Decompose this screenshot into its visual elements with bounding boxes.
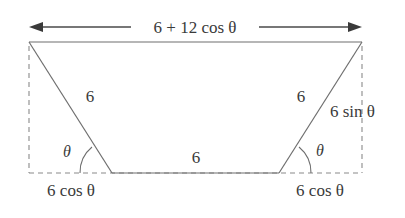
top-width-label: 6 + 12 cos θ — [154, 19, 237, 36]
right-height-label: 6 sin θ — [330, 103, 375, 120]
angle-arc-right — [299, 147, 311, 173]
right-leg-label: 6 — [297, 88, 306, 105]
bottom-base-label: 6 — [192, 149, 201, 166]
angle-arc-left — [80, 147, 92, 173]
left-leg-label: 6 — [86, 88, 95, 105]
arrowhead-right-icon — [348, 22, 362, 32]
angle-left-label: θ — [63, 144, 71, 160]
bottom-right-offset-label: 6 cos θ — [296, 182, 344, 199]
arrowhead-left-icon — [29, 22, 43, 32]
diagram-canvas: 6 + 12 cos θ 6 6 6 6 sin θ θ θ 6 cos θ 6… — [0, 0, 405, 218]
angle-right-label: θ — [316, 143, 324, 159]
bottom-left-offset-label: 6 cos θ — [47, 182, 95, 199]
